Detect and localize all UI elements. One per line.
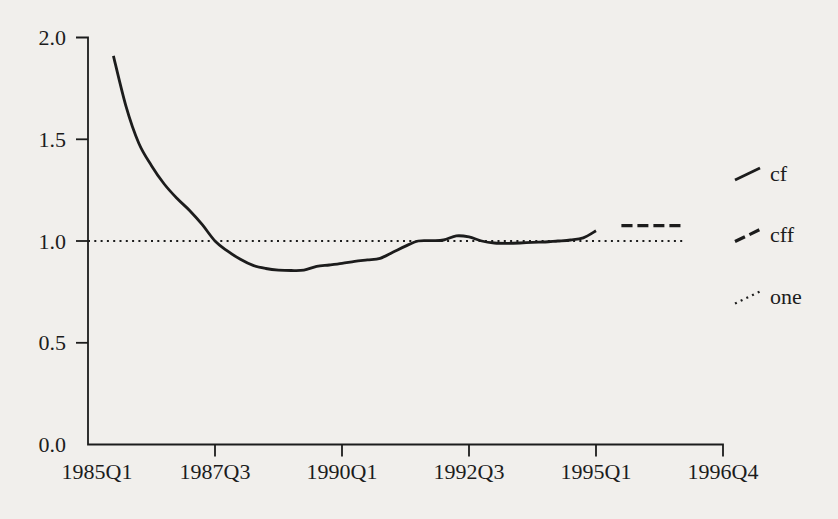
x-tick-label: 1996Q4 — [688, 459, 759, 484]
axis-frame — [76, 38, 723, 457]
y-tick-label: 1.0 — [39, 229, 67, 254]
x-tick-label: 1992Q3 — [434, 459, 505, 484]
recursive-estimates-figure: 0.00.51.01.52.01985Q11987Q31990Q11992Q31… — [0, 0, 838, 519]
legend-label-cf: cf — [770, 161, 788, 186]
x-tick-label: 1995Q1 — [561, 459, 632, 484]
legend-sample-cff — [735, 230, 760, 242]
y-tick-label: 0.0 — [39, 432, 67, 457]
x-tick-label: 1987Q3 — [180, 459, 251, 484]
y-tick-label: 1.5 — [39, 127, 67, 152]
y-tick-label: 2.0 — [39, 25, 67, 50]
x-tick-label: 1990Q1 — [307, 459, 378, 484]
legend-label-one: one — [770, 284, 802, 309]
cf-line — [113, 56, 596, 271]
x-tick-label: 1985Q1 — [62, 459, 133, 484]
legend-sample-one — [735, 292, 760, 304]
y-tick-label: 0.5 — [39, 330, 67, 355]
legend-sample-cf — [735, 168, 760, 180]
legend-label-cff: cff — [770, 222, 795, 247]
chart-canvas: 0.00.51.01.52.01985Q11987Q31990Q11992Q31… — [0, 0, 838, 519]
